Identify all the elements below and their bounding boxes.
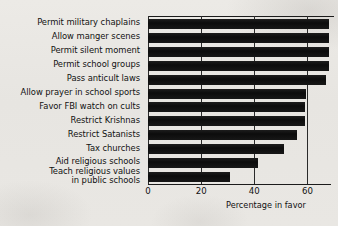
tick-label-60: 60 bbox=[302, 186, 313, 197]
bar bbox=[148, 47, 329, 57]
category-label-line: Restrict Satanists bbox=[0, 130, 140, 139]
bar bbox=[148, 130, 297, 140]
category-label-line: in public schools bbox=[0, 176, 140, 185]
category-axis-labels: Permit military chaplainsAllow manger sc… bbox=[0, 14, 143, 186]
category-label: Allow manger scenes bbox=[0, 32, 140, 41]
bar bbox=[148, 158, 258, 168]
category-label: Restrict Krishnas bbox=[0, 116, 140, 125]
bar bbox=[148, 61, 329, 71]
category-label-line: Allow prayer in school sports bbox=[0, 88, 140, 97]
category-label-line: Tax churches bbox=[0, 144, 140, 153]
category-label-line: Allow manger scenes bbox=[0, 32, 140, 41]
bar bbox=[148, 116, 305, 126]
category-label: Tax churches bbox=[0, 144, 140, 153]
tick-label-40: 40 bbox=[249, 186, 260, 197]
category-label: Pass anticult laws bbox=[0, 74, 140, 83]
value-axis-tick-labels: 0204060 bbox=[148, 186, 338, 200]
value-axis-title: Percentage in favor bbox=[226, 200, 306, 210]
category-label-line: Permit silent moment bbox=[0, 46, 140, 55]
bar bbox=[148, 172, 230, 182]
bar bbox=[148, 19, 329, 29]
category-label-line: Restrict Krishnas bbox=[0, 116, 140, 125]
category-label-line: Pass anticult laws bbox=[0, 74, 140, 83]
category-label: Allow prayer in school sports bbox=[0, 88, 140, 97]
tick-label-20: 20 bbox=[196, 186, 207, 197]
category-label-line: Permit military chaplains bbox=[0, 18, 140, 27]
category-label: Restrict Satanists bbox=[0, 130, 140, 139]
category-label: Favor FBI watch on cults bbox=[0, 102, 140, 111]
bar bbox=[148, 75, 326, 85]
category-label-line: Permit school groups bbox=[0, 60, 140, 69]
bar bbox=[148, 89, 306, 99]
bar-series bbox=[148, 17, 334, 184]
category-label: Permit silent moment bbox=[0, 46, 140, 55]
bar bbox=[148, 144, 284, 154]
bar bbox=[148, 33, 329, 43]
horizontal-bar-chart: Permit military chaplainsAllow manger sc… bbox=[0, 0, 338, 226]
bar bbox=[148, 102, 305, 112]
category-label-line: Favor FBI watch on cults bbox=[0, 102, 140, 111]
category-label: Teach religious valuesin public schools bbox=[0, 167, 140, 186]
category-label: Permit school groups bbox=[0, 60, 140, 69]
value-axis-line bbox=[148, 184, 331, 185]
category-label: Permit military chaplains bbox=[0, 18, 140, 27]
tick-label-0: 0 bbox=[145, 186, 150, 197]
plot-area bbox=[148, 16, 334, 185]
